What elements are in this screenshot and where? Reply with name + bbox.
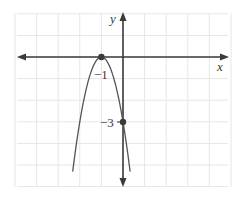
parabola-graph: y x −1 −3 — [0, 0, 237, 202]
vertex-point — [98, 54, 104, 60]
x-axis-label: x — [216, 59, 223, 74]
y-intercept-label: −3 — [100, 115, 114, 130]
y-axis-down-arrow-icon — [120, 178, 127, 187]
y-axis-label: y — [108, 11, 116, 26]
y-axis — [120, 12, 127, 187]
x-axis-left-arrow-icon — [17, 54, 26, 61]
vertex-label: −1 — [94, 67, 108, 82]
